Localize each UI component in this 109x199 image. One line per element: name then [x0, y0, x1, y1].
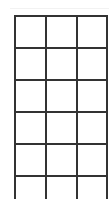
grid-cell: [16, 17, 45, 47]
top-faint-divider: [10, 8, 109, 9]
grid-cell: [16, 177, 45, 199]
grid-cell: [78, 49, 106, 79]
grid-cell: [47, 113, 76, 143]
grid-cell: [47, 177, 76, 199]
grid-cell: [78, 177, 106, 199]
grid-cell: [78, 145, 106, 175]
grid-cell: [16, 145, 45, 175]
grid-cell: [16, 49, 45, 79]
grid-cell: [47, 49, 76, 79]
grid-cell: [16, 113, 45, 143]
grid-cell: [78, 113, 106, 143]
grid-cell: [78, 81, 106, 111]
grid-cell: [47, 81, 76, 111]
grid-cell: [16, 81, 45, 111]
grid-vertical-line: [106, 15, 108, 199]
grid-cell: [78, 17, 106, 47]
empty-grid: [14, 15, 108, 199]
grid-cell: [47, 17, 76, 47]
grid-cell: [47, 145, 76, 175]
